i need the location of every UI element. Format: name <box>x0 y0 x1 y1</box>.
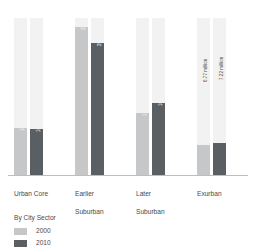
legend-item-2000[interactable]: 2000 <box>14 227 56 235</box>
bar-value-label: 13.82 million <box>143 113 148 116</box>
legend-title: By City Sector <box>14 214 56 222</box>
category-label-exurban: Exurban <box>197 180 222 198</box>
category-line-1: Earlier <box>75 189 104 198</box>
bar-value-label: 32.98 million <box>82 27 87 30</box>
bar-value-label: 10.18 million <box>37 129 42 132</box>
bar-value-label: 10.50 million <box>21 128 26 131</box>
x-axis-line <box>8 175 248 176</box>
bar-exurban-2000[interactable] <box>197 145 210 175</box>
category-line-1: Exurban <box>197 190 222 197</box>
category-line-2: Suburban <box>75 207 104 216</box>
bar-group-exurban: 6.77 million 7.22 million <box>197 18 226 175</box>
category-label-urban-core: Urban Core <box>14 180 48 198</box>
bar-group-earlier-suburban: 32.98 million 29.44 million <box>75 18 104 175</box>
bar-group-later-suburban: 13.82 million 16.03 million <box>136 18 165 175</box>
category-label-later-suburban: Later Suburban <box>136 180 165 225</box>
legend-label-2000: 2000 <box>36 227 51 235</box>
legend: By City Sector 2000 2010 <box>14 214 56 251</box>
category-label-earlier-suburban: Earlier Suburban <box>75 180 104 225</box>
bar-later-suburban-2010[interactable]: 16.03 million <box>152 103 165 175</box>
bar-value-label: 7.22 million <box>220 57 225 80</box>
bar-group-urban-core: 10.50 million 10.18 million <box>14 18 43 175</box>
legend-label-2010: 2010 <box>36 239 51 247</box>
x-axis-tick-labels: Urban Core Earlier Suburban Later Suburb… <box>0 180 261 214</box>
category-line-2: Suburban <box>136 207 165 216</box>
category-line-1: Later <box>136 189 165 198</box>
bar-earlier-suburban-2000[interactable]: 32.98 million <box>75 27 88 175</box>
bar-urban-core-2010[interactable]: 10.18 million <box>30 129 43 175</box>
bar-exurban-2010[interactable] <box>213 143 226 175</box>
legend-swatch-2000 <box>14 228 27 235</box>
bar-value-label: 16.03 million <box>159 103 164 106</box>
bar-earlier-suburban-2010[interactable]: 29.44 million <box>91 43 104 175</box>
bar-chart: 10.50 million 10.18 million 32.98 millio… <box>0 0 261 252</box>
bar-urban-core-2000[interactable]: 10.50 million <box>14 128 27 175</box>
legend-item-2010[interactable]: 2010 <box>14 239 56 247</box>
bar-later-suburban-2000[interactable]: 13.82 million <box>136 113 149 175</box>
legend-swatch-2010 <box>14 240 27 247</box>
bar-value-label: 6.77 million <box>204 59 209 82</box>
bar-value-label: 29.44 million <box>98 43 103 46</box>
category-line-1: Urban Core <box>14 190 48 197</box>
plot-area: 10.50 million 10.18 million 32.98 millio… <box>0 0 261 176</box>
